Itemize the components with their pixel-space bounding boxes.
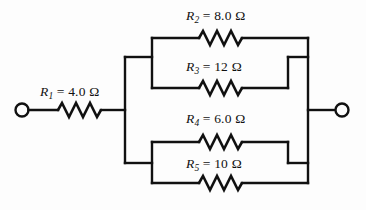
circuit-schematic-svg	[0, 0, 366, 210]
r4-value: = 6.0 Ω	[203, 111, 246, 126]
resistor-r5-label: R5 = 10 Ω	[186, 157, 242, 173]
left-terminal-node	[16, 104, 29, 117]
r2-value: = 8.0 Ω	[203, 8, 246, 23]
resistor-r4-symbol	[199, 135, 242, 149]
resistor-r3-label: R3 = 12 Ω	[186, 60, 242, 76]
circuit-diagram: R1 = 4.0 Ω R2 = 8.0 Ω R3 = 12 Ω R4 = 6.0…	[0, 0, 366, 210]
resistor-r2-label: R2 = 8.0 Ω	[186, 9, 245, 25]
resistor-r4-label: R4 = 6.0 Ω	[186, 112, 245, 128]
r5-subscript: 5	[194, 163, 199, 173]
resistor-r2-symbol	[199, 31, 242, 45]
r1-subscript: 1	[48, 91, 53, 101]
r3-value: = 12 Ω	[203, 59, 242, 74]
right-terminal-node	[336, 104, 349, 117]
r5-value: = 10 Ω	[203, 156, 242, 171]
r1-value: = 4.0 Ω	[57, 84, 100, 99]
resistor-r1-symbol	[58, 103, 101, 117]
resistor-r1-label: R1 = 4.0 Ω	[40, 85, 99, 101]
r4-subscript: 4	[194, 118, 199, 128]
r3-subscript: 3	[194, 66, 199, 76]
resistor-r3-symbol	[199, 81, 242, 95]
resistor-r5-symbol	[199, 176, 242, 190]
r2-subscript: 2	[194, 15, 199, 25]
